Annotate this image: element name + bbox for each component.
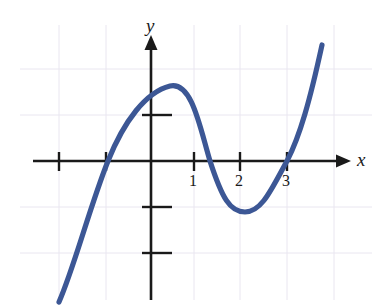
y-axis-arrow-icon <box>145 35 158 50</box>
x-tick-label-2: 2 <box>235 173 243 189</box>
x-axis-arrow-icon <box>336 155 351 168</box>
x-tick-label-1: 1 <box>189 173 197 189</box>
x-axis-label: x <box>357 150 365 169</box>
graph-figure: y x 1 2 3 <box>0 0 379 305</box>
x-axis <box>33 155 351 168</box>
y-axis-label: y <box>146 16 154 35</box>
coordinate-plot <box>0 0 379 305</box>
x-tick-label-3: 3 <box>282 173 290 189</box>
y-axis-ticks <box>142 115 172 253</box>
y-axis <box>145 35 158 300</box>
